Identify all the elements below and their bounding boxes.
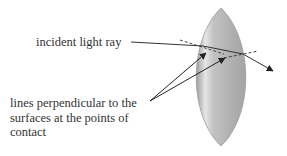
- perpendicular-lines-label-line2: surfaces at the points of: [10, 111, 137, 126]
- perpendicular-lines-label-line1: lines perpendicular to the: [10, 96, 137, 111]
- perpendicular-lines-label: lines perpendicular to the surfaces at t…: [10, 96, 137, 140]
- emergent-ray: [243, 54, 273, 71]
- convex-lens: [196, 8, 246, 146]
- perpendicular-lines-label-line3: contact: [10, 125, 137, 140]
- incident-light-ray-label: incident light ray: [36, 35, 121, 50]
